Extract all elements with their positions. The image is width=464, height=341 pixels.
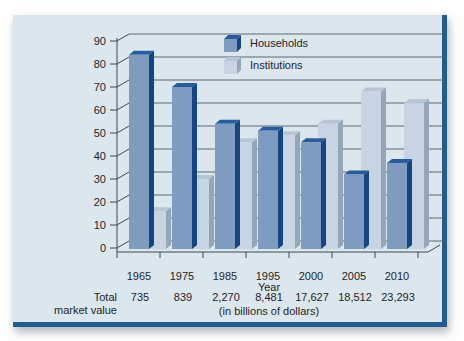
y-tick-connector <box>117 126 129 133</box>
y-tick-connector <box>117 172 129 179</box>
total-value-2005: 18,512 <box>338 291 372 303</box>
bar-institutions-1975-side <box>209 175 214 249</box>
bar-households-2010-side <box>407 159 412 249</box>
bar-institutions-1995-side <box>295 131 300 249</box>
bar-households-1985 <box>215 124 235 249</box>
total-value-1965: 735 <box>131 291 149 303</box>
bar-institutions-2000-side <box>338 120 343 249</box>
bar-households-2005 <box>344 174 364 249</box>
y-tick-connector <box>117 149 129 156</box>
y-tick-label: 10 <box>94 219 106 231</box>
total-value-1995: 8,481 <box>255 291 283 303</box>
legend-label-households: Households <box>250 37 308 49</box>
y-tick-connector <box>117 218 129 225</box>
bar-households-1965-side <box>149 51 154 249</box>
chart-card: 0102030405060708090196519751985199520002… <box>13 15 447 327</box>
y-tick-label: 90 <box>94 35 106 47</box>
y-tick-label: 20 <box>94 196 106 208</box>
bar-households-2010 <box>387 163 407 249</box>
y-tick-label: 0 <box>100 242 106 254</box>
y-tick-label: 50 <box>94 127 106 139</box>
y-tick-connector <box>117 241 129 248</box>
legend-item-institutions: Institutions <box>223 54 308 76</box>
y-tick-label: 30 <box>94 173 106 185</box>
bar-households-2005-side <box>364 170 369 249</box>
bar-institutions-2005-side <box>381 88 386 249</box>
households-swatch-icon <box>223 34 242 53</box>
total-label-line2: market value <box>13 304 117 317</box>
total-value-1975: 839 <box>174 291 192 303</box>
y-tick-connector <box>117 34 129 41</box>
y-tick-connector <box>117 103 129 110</box>
billions-note: (in billions of dollars) <box>117 305 421 317</box>
bar-households-2000-side <box>321 138 326 249</box>
institutions-swatch-icon <box>223 56 242 75</box>
bar-households-1975 <box>172 87 192 249</box>
total-value-2010: 23,293 <box>381 291 415 303</box>
bar-households-1965 <box>129 55 149 249</box>
bar-institutions-1965-side <box>166 207 171 249</box>
y-tick-label: 80 <box>94 58 106 70</box>
y-tick-label: 40 <box>94 150 106 162</box>
total-market-value-row: 7358392,2708,48117,62718,51223,293 <box>13 291 442 304</box>
y-tick-connector <box>117 57 129 64</box>
legend-label-institutions: Institutions <box>250 59 303 71</box>
legend-item-households: Households <box>223 32 308 54</box>
bar-institutions-2010-side <box>424 99 429 249</box>
y-tick-label: 60 <box>94 104 106 116</box>
chart-area: 0102030405060708090196519751985199520002… <box>13 15 442 322</box>
y-tick-connector <box>117 195 129 202</box>
bar-households-1995-side <box>278 127 283 249</box>
y-tick-label: 70 <box>94 81 106 93</box>
bar-households-1995 <box>258 131 278 249</box>
bar-institutions-1985-side <box>252 138 257 249</box>
chart-legend: Households Institutions <box>223 32 308 76</box>
bar-households-2000 <box>301 142 321 249</box>
total-value-2000: 17,627 <box>295 291 329 303</box>
total-value-1985: 2,270 <box>212 291 240 303</box>
floor-corner <box>428 245 440 252</box>
bar-households-1975-side <box>192 83 197 249</box>
bar-households-1985-side <box>235 120 240 249</box>
y-tick-connector <box>117 80 129 87</box>
